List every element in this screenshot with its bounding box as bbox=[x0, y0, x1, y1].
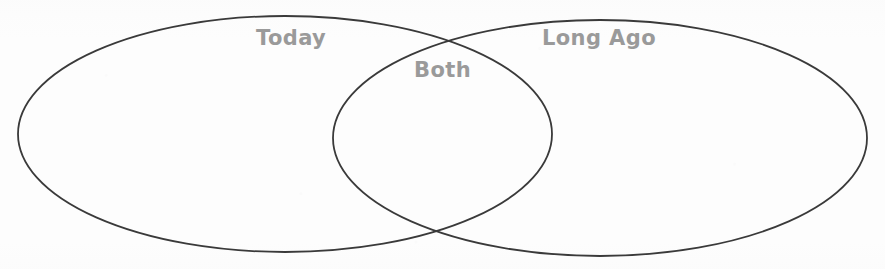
venn-circle-today[interactable] bbox=[18, 16, 552, 252]
venn-diagram-page: Today Long Ago Both bbox=[0, 0, 885, 269]
venn-label-both: Both bbox=[414, 60, 471, 81]
venn-diagram-canvas bbox=[0, 0, 885, 269]
venn-label-long-ago: Long Ago bbox=[542, 28, 656, 49]
venn-label-today: Today bbox=[256, 28, 326, 49]
venn-circle-long-ago[interactable] bbox=[333, 20, 867, 256]
